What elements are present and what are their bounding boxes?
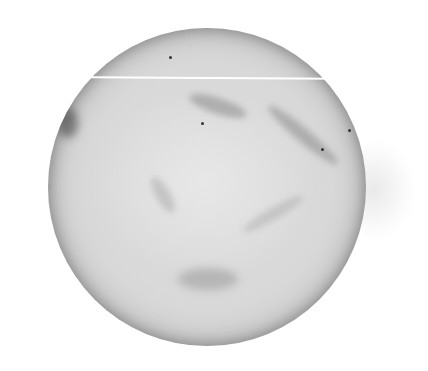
rim-shadow: [58, 108, 78, 138]
speck: [201, 122, 204, 125]
texture-shadow: [178, 268, 238, 290]
speck: [348, 129, 351, 132]
speck: [169, 56, 172, 59]
speck: [321, 148, 324, 151]
